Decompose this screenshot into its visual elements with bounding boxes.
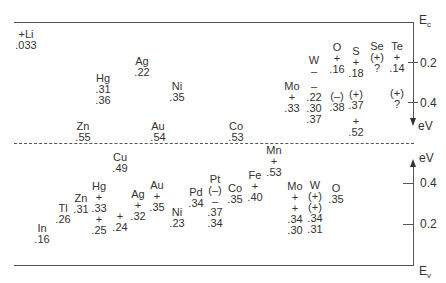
upper-unit-label: eV [418, 120, 433, 132]
impurity-s-upper: S+.18(+).37+.52 [348, 46, 363, 138]
impurity-mo-upper: Mo+.33 [284, 81, 299, 114]
impurity-hg-lower: Hg+.33+.25 [91, 181, 106, 236]
tick-lower-0.4 [403, 183, 413, 184]
impurity-li: +Li.033 [15, 29, 36, 51]
impurity-ag-upper: Ag.22 [134, 56, 149, 78]
impurity-tl: Tl.26 [55, 203, 70, 225]
ec-label: Ec [419, 14, 431, 31]
impurity-co-upper: Co.53 [228, 121, 243, 143]
impurity-zn-upper: Zn.55 [75, 121, 90, 143]
impurity-ag-lower: Ag+.32 [130, 189, 145, 222]
upper-tick-label-0.2: 0.2 [420, 57, 437, 69]
impurity-ni-lower: Ni.23 [169, 207, 184, 229]
impurity-o-lower: O.35 [328, 183, 343, 205]
conduction-band-edge-line [14, 22, 414, 23]
impurity-au-lower: Au+.35 [149, 180, 164, 213]
upper-tick-label-0.4: 0.4 [420, 97, 437, 109]
tick-upper-0.2 [408, 62, 418, 63]
arrow-up-icon [410, 159, 416, 167]
ev-label: Ev [419, 265, 431, 282]
impurity-au-upper: Au.54 [150, 121, 165, 143]
impurity-ni-upper: Ni.35 [169, 81, 184, 103]
impurity-o-upper: O+.16(–).38 [329, 42, 344, 113]
impurity-zn-lower: Zn.31 [73, 193, 88, 215]
impurity-cu: Cu.49 [112, 152, 127, 174]
upper-energy-axis [413, 22, 414, 122]
impurity-plus-24: +.24 [112, 211, 127, 233]
arrow-down-icon [410, 118, 416, 126]
midgap-dashed-line [14, 143, 414, 144]
impurity-in: In.16 [34, 223, 49, 245]
tick-upper-0.4 [408, 102, 418, 103]
impurity-co-lower: Co.35 [227, 183, 242, 205]
impurity-mo-lower: Mo++.34.30 [287, 181, 302, 236]
impurity-pt: Pt(–)–.37.34 [207, 174, 222, 229]
lower-energy-axis [413, 165, 414, 266]
impurity-w-upper: W––.22.30.37 [306, 55, 321, 125]
tick-lower-0.2 [403, 224, 413, 225]
impurity-se: Se(+)? [370, 41, 384, 74]
impurity-mn: Mn+.53 [266, 145, 281, 178]
impurity-fe: Fe+.40 [247, 170, 262, 203]
lower-tick-label-0.4: 0.4 [420, 177, 437, 189]
impurity-pd: Pd.34 [188, 187, 203, 209]
lower-tick-label-0.2: 0.2 [420, 218, 437, 230]
impurity-w-lower: W(+)(+).34.31 [307, 180, 322, 235]
impurity-te: Te+.14(+)? [389, 41, 404, 110]
lower-unit-label: eV [419, 152, 434, 164]
valence-band-edge-line [14, 265, 414, 266]
impurity-hg-upper: Hg.31.36 [95, 73, 110, 106]
